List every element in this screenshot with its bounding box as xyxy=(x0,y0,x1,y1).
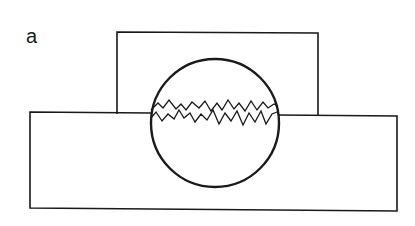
diagram-canvas xyxy=(0,0,415,226)
sphere xyxy=(151,59,279,187)
